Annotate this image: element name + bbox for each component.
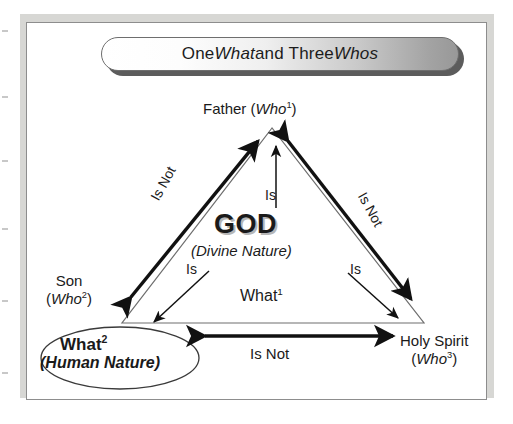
node-label-son: Son(Who2) <box>46 273 92 308</box>
spoke-label-is-left: Is <box>186 262 197 278</box>
center-label-god: GOD <box>214 209 277 239</box>
father-paren-close: ) <box>292 100 297 117</box>
arrow-is-god-humannature <box>154 271 209 322</box>
spoke-label-is-top: Is <box>265 188 276 204</box>
what2-word: What <box>60 335 102 354</box>
edge-label-isnot-bottom: Is Not <box>250 346 289 363</box>
ellipse-label-human-nature: (Human Nature) <box>40 354 160 372</box>
node-label-holy-spirit: Holy Spirit(Who3) <box>400 333 468 368</box>
father-name: Father <box>203 100 246 117</box>
ellipse-label-what2: What2 <box>60 334 107 354</box>
son-paren-close: ) <box>87 290 92 307</box>
what1-word: What <box>240 287 277 304</box>
holyspirit-paren-close: ) <box>452 350 457 367</box>
son-who: Who <box>51 290 82 307</box>
spoke-label-is-right: Is <box>350 262 361 278</box>
what1-sup: 1 <box>277 286 283 297</box>
holyspirit-who: Who <box>416 350 447 367</box>
son-name: Son <box>56 272 83 289</box>
node-label-father: Father (Who1) <box>203 100 297 118</box>
holyspirit-name: Holy Spirit <box>400 332 468 349</box>
center-label-what1: What1 <box>240 286 283 305</box>
what2-sup: 2 <box>102 333 108 345</box>
center-label-divine-nature: (Divine Nature) <box>191 243 292 260</box>
father-who: Who <box>256 100 287 117</box>
